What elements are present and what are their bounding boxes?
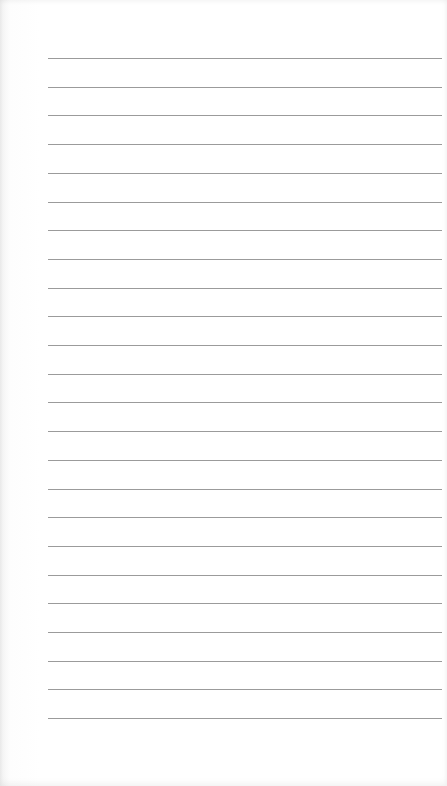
ruled-line xyxy=(48,259,442,260)
ruled-line xyxy=(48,58,442,59)
ruled-line xyxy=(48,546,442,547)
ruled-line xyxy=(48,374,442,375)
ruled-line xyxy=(48,115,442,116)
ruled-line xyxy=(48,603,442,604)
ruled-line xyxy=(48,87,442,88)
ruled-line xyxy=(48,402,442,403)
ruled-line xyxy=(48,689,442,690)
ruled-line xyxy=(48,173,442,174)
ruled-line xyxy=(48,632,442,633)
ruled-line xyxy=(48,460,442,461)
ruled-line xyxy=(48,288,442,289)
ruled-line xyxy=(48,345,442,346)
ruled-line xyxy=(48,144,442,145)
ruled-line xyxy=(48,575,442,576)
lined-paper-sheet xyxy=(0,0,447,786)
ruled-line xyxy=(48,517,442,518)
ruled-line xyxy=(48,489,442,490)
ruled-line xyxy=(48,718,442,719)
ruled-line xyxy=(48,230,442,231)
ruled-line xyxy=(48,431,442,432)
ruled-line xyxy=(48,202,442,203)
ruled-line xyxy=(48,316,442,317)
ruled-line xyxy=(48,661,442,662)
